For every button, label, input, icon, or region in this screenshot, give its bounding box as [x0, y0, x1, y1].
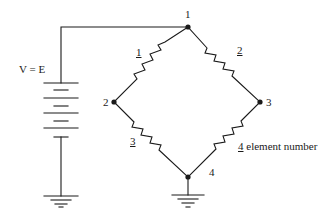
- ground-icon: [44, 196, 78, 207]
- wheatstone-bridge-diagram: V = E 1 2 3 4 1 2 3 4 element number: [0, 0, 335, 224]
- element-3-label: 3: [130, 136, 136, 147]
- node-3-label: 3: [266, 97, 272, 108]
- resistor-3-icon: [114, 102, 188, 177]
- node-3-dot: [257, 99, 262, 104]
- node-1-dot: [185, 24, 190, 29]
- resistor-1-icon: [114, 27, 188, 102]
- element-2-label: 2: [237, 45, 243, 56]
- battery-icon: [44, 83, 78, 137]
- node-2-label: 2: [103, 97, 109, 108]
- circuit-drawing: [0, 0, 335, 224]
- ground-icon: [172, 195, 204, 207]
- legend-text: element number: [244, 140, 318, 152]
- supply-wire: [61, 27, 188, 83]
- node-1-label: 1: [185, 9, 191, 20]
- node-4-dot: [185, 174, 190, 179]
- element-1-label: 1: [136, 47, 142, 58]
- node-4-label: 4: [209, 167, 215, 178]
- element-number-legend: 4 element number: [238, 141, 317, 152]
- node-2-dot: [111, 99, 116, 104]
- resistor-2-icon: [188, 27, 260, 102]
- source-label: V = E: [19, 64, 45, 75]
